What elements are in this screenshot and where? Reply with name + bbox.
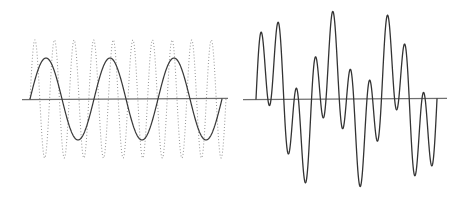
panel-component-waves	[0, 0, 232, 203]
panel-superposition	[232, 0, 464, 203]
zero-axis-line-right	[243, 98, 447, 99]
component-waves-plot	[0, 0, 232, 203]
zero-axis-line-left	[22, 98, 228, 99]
superposition-plot	[232, 0, 464, 203]
sum-wave-path	[256, 11, 437, 186]
waveform-figure	[0, 0, 464, 203]
